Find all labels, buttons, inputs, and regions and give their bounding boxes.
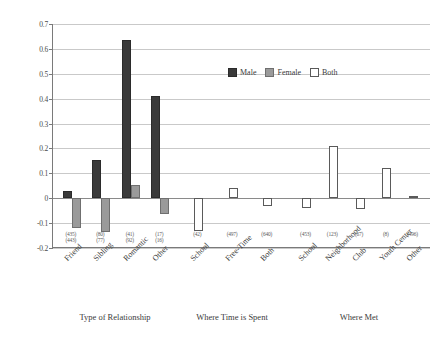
legend-label: Female <box>277 68 301 77</box>
bar-both-school <box>302 198 311 208</box>
sample-size-label: (496) <box>397 232 429 238</box>
sample-size-label: (42) <box>181 232 213 238</box>
bar-male-romantic <box>122 40 131 198</box>
sample-size-label: (17)(16) <box>143 232 175 243</box>
legend-item-female: Female <box>265 68 301 77</box>
legend-label: Male <box>240 68 256 77</box>
bar-both-club <box>356 198 365 209</box>
y-tick-label: 0.3 <box>22 119 48 128</box>
sample-size-label: (435)(443) <box>55 232 87 243</box>
y-axis: 0.70.60.50.40.30.20.10-0.1-0.2 <box>22 24 48 248</box>
y-tick-mark <box>49 99 53 100</box>
y-tick-mark <box>49 248 53 249</box>
sample-size-label: (80)(77) <box>84 232 116 243</box>
legend-swatch-male-icon <box>228 68 237 77</box>
y-tick-label: 0.4 <box>22 94 48 103</box>
chart-legend: MaleFemaleBoth <box>228 68 338 77</box>
y-tick-label: 0.7 <box>22 20 48 29</box>
y-tick-label: 0 <box>22 194 48 203</box>
bar-female-sibling <box>101 198 110 232</box>
y-tick-label: -0.2 <box>22 244 48 253</box>
y-tick-mark <box>49 49 53 50</box>
bar-both-both <box>263 198 272 205</box>
y-tick-label: 0.2 <box>22 144 48 153</box>
bar-female-other <box>160 198 169 214</box>
sample-size-label: (640) <box>251 232 283 238</box>
bar-female-friend <box>72 198 81 228</box>
y-tick-label: -0.1 <box>22 219 48 228</box>
y-tick-label: 0.1 <box>22 169 48 178</box>
gridline <box>53 99 430 100</box>
bar-both-youth-center <box>382 168 391 198</box>
y-tick-mark <box>49 198 53 199</box>
y-tick-label: 0.6 <box>22 44 48 53</box>
bar-both-free-time <box>229 188 238 198</box>
y-tick-label: 0.5 <box>22 69 48 78</box>
gridline <box>53 24 430 25</box>
y-tick-mark <box>49 24 53 25</box>
legend-item-both: Both <box>310 68 338 77</box>
bar-female-romantic <box>131 185 140 199</box>
group-title: Where Met <box>289 312 429 322</box>
gridline <box>53 49 430 50</box>
gridline <box>53 173 430 174</box>
y-tick-mark <box>49 124 53 125</box>
gridline <box>53 124 430 125</box>
y-tick-mark <box>49 74 53 75</box>
legend-swatch-female-icon <box>265 68 274 77</box>
y-tick-mark <box>49 173 53 174</box>
gridline <box>53 148 430 149</box>
bar-male-other <box>151 96 160 198</box>
legend-label: Both <box>322 68 338 77</box>
bar-both-other <box>409 196 418 198</box>
bar-both-school <box>194 198 203 230</box>
legend-item-male: Male <box>228 68 256 77</box>
grouped-bar-chart: 0.70.60.50.40.30.20.10-0.1-0.2 (435)(443… <box>0 0 444 340</box>
bar-both-neighborhood <box>329 146 338 198</box>
plot-area <box>52 24 430 248</box>
bar-male-sibling <box>92 160 101 199</box>
legend-swatch-both-icon <box>310 68 319 77</box>
group-title: Where Time is Spent <box>162 312 302 322</box>
y-tick-mark <box>49 223 53 224</box>
y-tick-mark <box>49 148 53 149</box>
bar-male-friend <box>63 191 72 198</box>
